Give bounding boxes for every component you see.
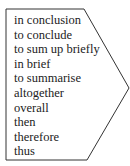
list-item: therefore [14, 130, 100, 145]
list-item: altogether [14, 86, 100, 101]
list-item: thus [14, 144, 100, 159]
list-item: to conclude [14, 28, 100, 43]
list-item: to summarise [14, 71, 100, 86]
list-item: then [14, 115, 100, 130]
list-item: overall [14, 101, 100, 116]
list-item: in conclusion [14, 13, 100, 28]
list-item: to sum up briefly [14, 42, 100, 57]
list-item: in brief [14, 57, 100, 72]
summary-phrase-list: in conclusion to conclude to sum up brie… [14, 13, 100, 159]
